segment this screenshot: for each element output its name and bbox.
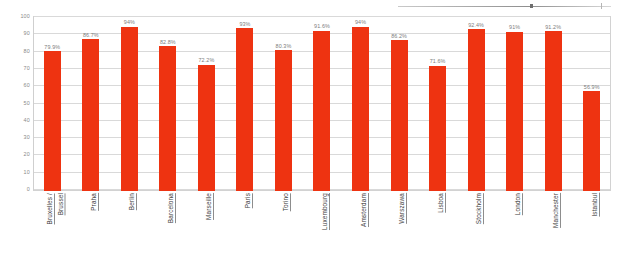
x-axis-label-slot: Berlin bbox=[110, 193, 149, 259]
x-axis-category-label: Torino bbox=[283, 193, 291, 211]
y-axis-tick-label: 70 bbox=[24, 65, 30, 71]
bar[interactable]: 91.2% bbox=[545, 31, 562, 191]
x-axis-label-slot: Praha bbox=[72, 193, 111, 259]
bar-value-label: 82.8% bbox=[160, 39, 176, 45]
bar-value-label: 92.4% bbox=[468, 22, 484, 28]
bar-slot: 79.9% bbox=[33, 16, 72, 191]
x-axis-category-label: Marseille bbox=[206, 193, 214, 220]
bar[interactable]: 86.2% bbox=[391, 40, 408, 191]
bar[interactable]: 91% bbox=[506, 32, 523, 191]
bar-slot: 71.6% bbox=[418, 16, 457, 191]
x-axis-category-label: London bbox=[515, 193, 523, 215]
bar-value-label: 71.6% bbox=[430, 58, 446, 64]
x-axis-label-slot: Lisboa bbox=[418, 193, 457, 259]
y-axis-tick-label: 20 bbox=[24, 151, 30, 157]
y-axis-tick-label: 40 bbox=[24, 117, 30, 123]
x-axis-label-slot: Warszawa bbox=[380, 193, 419, 259]
bar-value-label: 93% bbox=[239, 21, 250, 27]
bar-value-label: 86.7% bbox=[83, 32, 99, 38]
x-axis-label-slot: Barcelona bbox=[149, 193, 188, 259]
bar[interactable]: 79.9% bbox=[44, 51, 61, 191]
bar[interactable]: 86.7% bbox=[82, 39, 99, 191]
bar[interactable]: 94% bbox=[352, 27, 369, 192]
x-axis-category-label: Manchester bbox=[553, 193, 561, 228]
x-axis-label-slot: London bbox=[495, 193, 534, 259]
bar-slot: 91% bbox=[495, 16, 534, 191]
bars-container: 79.9%86.7%94%82.8%72.2%93%80.3%91.6%94%8… bbox=[33, 16, 611, 191]
bar[interactable]: 72.2% bbox=[198, 65, 215, 191]
bar-slot: 94% bbox=[341, 16, 380, 191]
x-axis-label-slot: Amsterdam bbox=[341, 193, 380, 259]
x-axis-category-label: Warszawa bbox=[399, 193, 407, 224]
bar-slot: 92.4% bbox=[457, 16, 496, 191]
toolbar-sliver-tick bbox=[601, 3, 602, 9]
x-axis-category-label: Paris bbox=[245, 193, 253, 208]
bar[interactable]: 80.3% bbox=[275, 50, 292, 191]
x-axis-label-slot: Torino bbox=[264, 193, 303, 259]
bar-value-label: 91.2% bbox=[545, 24, 561, 30]
bar-slot: 94% bbox=[110, 16, 149, 191]
x-axis-category-label: Istanbul bbox=[592, 193, 600, 217]
x-axis-label-slot: Marseille bbox=[187, 193, 226, 259]
x-axis-category-label: Lisboa bbox=[438, 193, 446, 213]
bar-slot: 82.8% bbox=[149, 16, 188, 191]
y-axis-tick-label: 30 bbox=[24, 134, 30, 140]
x-axis-label-slot: Paris bbox=[226, 193, 265, 259]
bar-slot: 80.3% bbox=[264, 16, 303, 191]
x-axis-category-label: Praha bbox=[91, 193, 99, 211]
x-axis-label-slot: Bruxelles /Brussel bbox=[33, 193, 72, 259]
y-axis-tick-label: 0 bbox=[27, 186, 30, 192]
x-axis-category-label: Berlin bbox=[129, 193, 137, 210]
bar[interactable]: 93% bbox=[236, 28, 253, 191]
bar-slot: 56.9% bbox=[572, 16, 611, 191]
y-axis-tick-label: 50 bbox=[24, 100, 30, 106]
toolbar-sliver bbox=[398, 6, 611, 7]
x-axis-category-label-line2: Brussel bbox=[58, 193, 66, 215]
toolbar-sliver-knob[interactable] bbox=[530, 4, 533, 8]
bar[interactable]: 94% bbox=[121, 27, 138, 192]
bar[interactable]: 91.6% bbox=[313, 31, 330, 191]
bar[interactable]: 92.4% bbox=[468, 29, 485, 191]
bar-value-label: 86.2% bbox=[391, 33, 407, 39]
bar-value-label: 72.2% bbox=[198, 57, 214, 63]
bar-value-label: 80.3% bbox=[276, 43, 292, 49]
bar-slot: 72.2% bbox=[187, 16, 226, 191]
bar-value-label: 79.9% bbox=[44, 44, 60, 50]
x-axis-category-label: Stockholm bbox=[476, 193, 484, 224]
bar-value-label: 91% bbox=[509, 24, 520, 30]
x-axis-category-label: Barcelona bbox=[168, 193, 176, 223]
x-axis-category-label: Bruxelles / bbox=[47, 193, 55, 224]
bar-slot: 91.6% bbox=[303, 16, 342, 191]
bar-slot: 86.7% bbox=[72, 16, 111, 191]
x-axis-category-label: Amsterdam bbox=[361, 193, 369, 227]
x-axis-label-slot: Manchester bbox=[534, 193, 573, 259]
y-axis-tick-label: 60 bbox=[24, 82, 30, 88]
bar-value-label: 91.6% bbox=[314, 23, 330, 29]
bar-value-label: 56.9% bbox=[584, 84, 600, 90]
y-axis-tick-label: 80 bbox=[24, 48, 30, 54]
bar[interactable]: 82.8% bbox=[159, 46, 176, 191]
y-axis-tick-label: 100 bbox=[20, 13, 30, 19]
x-axis-label-slot: Stockholm bbox=[457, 193, 496, 259]
y-axis-tick-label: 90 bbox=[24, 30, 30, 36]
bar-slot: 86.2% bbox=[380, 16, 419, 191]
bar[interactable]: 56.9% bbox=[583, 91, 600, 191]
bar-chart: 0102030405060708090100 79.9%86.7%94%82.8… bbox=[0, 0, 619, 263]
x-axis-labels: Bruxelles /BrusselPrahaBerlinBarcelonaMa… bbox=[33, 193, 611, 259]
bar-value-label: 94% bbox=[124, 19, 135, 25]
y-axis-tick-label: 10 bbox=[24, 169, 30, 175]
bar[interactable]: 71.6% bbox=[429, 66, 446, 191]
x-axis-category-label: Luxembourg bbox=[322, 193, 330, 230]
bar-value-label: 94% bbox=[355, 19, 366, 25]
bar-slot: 91.2% bbox=[534, 16, 573, 191]
x-axis-label-slot: Luxembourg bbox=[303, 193, 342, 259]
x-axis-label-slot: Istanbul bbox=[572, 193, 611, 259]
bar-slot: 93% bbox=[226, 16, 265, 191]
